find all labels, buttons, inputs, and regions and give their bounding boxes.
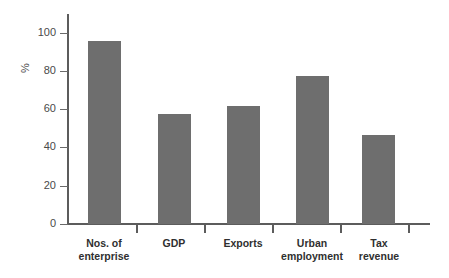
y-tick-label-20: 20 (44, 179, 56, 192)
y-tick-label-0: 0 (50, 217, 56, 230)
x-label-line-2: enterprise (56, 250, 152, 263)
x-tick-2 (204, 225, 206, 233)
y-tick-80: 80 (60, 71, 68, 72)
y-tick-60: 60 (60, 109, 68, 110)
bar-nos-of-enterprise (88, 41, 121, 224)
bar-gdp (158, 114, 191, 224)
y-tick-20: 20 (60, 186, 68, 187)
x-tick-3 (272, 225, 274, 233)
bar-urban-employment (296, 76, 329, 224)
x-label-line-2: revenue (331, 250, 427, 263)
x-label-tax-revenue: Tax revenue (331, 237, 427, 263)
y-tick-label-40: 40 (44, 140, 56, 153)
bar-exports (227, 106, 260, 224)
y-tick-0: 0 (60, 224, 68, 225)
bar-tax-revenue (362, 135, 395, 224)
x-tick-4 (340, 225, 342, 233)
bar-chart: % 0 20 40 60 80 100 Nos. of enterprise G… (0, 0, 449, 278)
y-tick-label-100: 100 (38, 26, 56, 39)
y-axis-line (67, 14, 69, 225)
y-axis-title: % (19, 57, 31, 79)
y-tick-label-80: 80 (44, 64, 56, 77)
y-tick-100: 100 (60, 33, 68, 34)
x-tick-5 (408, 225, 410, 233)
y-tick-40: 40 (60, 147, 68, 148)
y-tick-label-60: 60 (44, 102, 56, 115)
x-label-line-1: Tax (331, 237, 427, 250)
x-tick-1 (136, 225, 138, 233)
